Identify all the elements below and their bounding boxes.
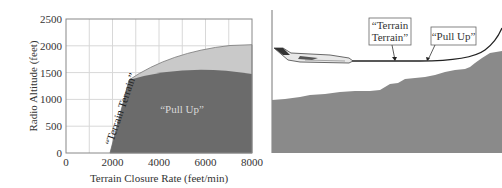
y-tick: 0 bbox=[57, 147, 63, 159]
y-tick: 1000 bbox=[40, 93, 63, 105]
envelope-chart: “Pull Up” “Terrain Terrain” 0 500 1000 1… bbox=[27, 13, 264, 185]
aircraft-icon bbox=[274, 48, 353, 63]
x-tick: 8000 bbox=[241, 156, 264, 168]
y-tick: 2500 bbox=[40, 13, 63, 25]
x-axis-label: Terrain Closure Rate (feet/min) bbox=[90, 172, 229, 185]
y-tick: 2000 bbox=[40, 40, 63, 52]
callout-pull-up-text: “Pull Up” bbox=[432, 30, 476, 42]
y-tick: 1500 bbox=[40, 67, 63, 79]
x-tick: 4000 bbox=[148, 156, 171, 168]
y-axis-ticks: 0 500 1000 1500 2000 2500 bbox=[40, 13, 63, 159]
terrain-ground bbox=[272, 51, 502, 153]
x-tick: 0 bbox=[63, 156, 69, 168]
pull-up-callout: “Pull Up” bbox=[426, 27, 476, 61]
figure: “Pull Up” “Terrain Terrain” 0 500 1000 1… bbox=[0, 0, 502, 188]
callout-terrain-line1: “Terrain bbox=[372, 19, 409, 31]
y-tick: 500 bbox=[46, 120, 63, 132]
flight-profile-diagram: “Terrain Terrain” “Pull Up” bbox=[272, 10, 502, 153]
pull-up-label: “Pull Up” bbox=[160, 103, 204, 115]
terrain-terrain-callout: “Terrain Terrain” bbox=[369, 18, 411, 61]
y-axis-label: Radio Altitude (feet) bbox=[27, 40, 40, 131]
x-tick: 2000 bbox=[102, 156, 125, 168]
x-axis-ticks: 0 2000 4000 6000 8000 bbox=[63, 156, 263, 168]
x-tick: 6000 bbox=[195, 156, 218, 168]
callout-terrain-line2: Terrain” bbox=[372, 31, 409, 43]
